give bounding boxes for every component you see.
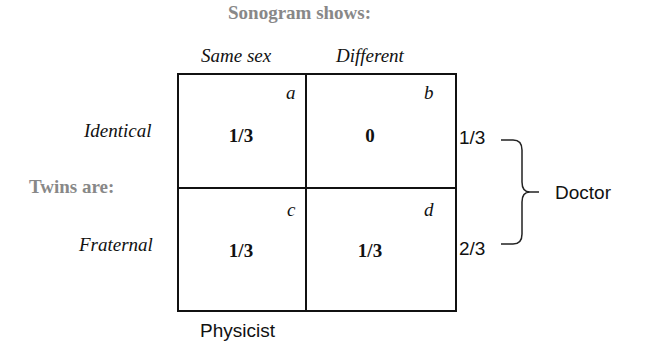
cell-d-corner-label: d — [424, 199, 434, 221]
cell-d-value: 1/3 — [310, 240, 430, 262]
doctor-label: Doctor — [555, 182, 611, 204]
cell-a-corner-label: a — [286, 82, 296, 104]
row-marginal-fraternal: 2/3 — [459, 238, 485, 260]
cell-c-corner-label: c — [287, 199, 295, 221]
diagram-title: Sonogram shows: — [228, 2, 371, 24]
cell-b-corner-label: b — [424, 82, 434, 104]
row-divider — [177, 187, 457, 189]
row-group-label: Twins are: — [29, 176, 114, 198]
curly-brace-icon — [495, 130, 540, 250]
cell-b-value: 0 — [310, 125, 430, 147]
row-header-identical: Identical — [84, 120, 152, 142]
row-header-fraternal: Fraternal — [79, 234, 153, 256]
cell-c-value: 1/3 — [181, 240, 301, 262]
column-divider — [305, 73, 307, 312]
contingency-table — [177, 73, 457, 312]
column-header-same-sex: Same sex — [201, 45, 271, 67]
column-header-different: Different — [336, 45, 404, 67]
cell-a-value: 1/3 — [181, 125, 301, 147]
row-marginal-identical: 1/3 — [459, 127, 485, 149]
physicist-label: Physicist — [200, 320, 275, 342]
